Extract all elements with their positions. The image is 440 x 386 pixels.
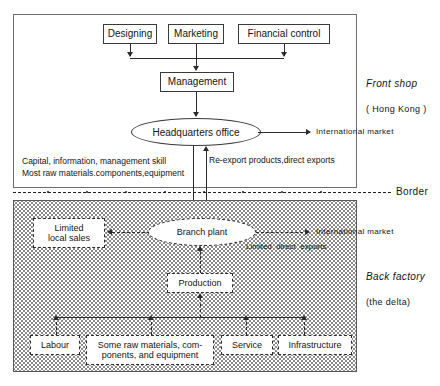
box-management-label: Management: [168, 76, 226, 87]
connector-bottom-bus: [56, 317, 304, 318]
arrowhead-local-sales-in: [107, 229, 112, 235]
arrowhead-management-in: [193, 66, 199, 71]
label-limited-direct-exports: Limited direct exports: [246, 242, 326, 251]
label-border: Border: [396, 186, 428, 197]
border-divider: [13, 192, 391, 193]
arrowhead-hq-in: [193, 112, 199, 117]
arrowhead-raw-materials: [148, 315, 154, 320]
diagram-canvas: Designing Marketing Financial control Ma…: [0, 0, 440, 386]
arrowhead-production-in: [197, 293, 203, 298]
label-capital-flow-line2: Most raw materials.components,equipment: [22, 168, 184, 178]
arrowhead-branch-from-production: [197, 246, 203, 251]
arrowhead-intl-bottom: [305, 229, 310, 235]
connector-bus-production: [200, 298, 201, 318]
box-financial-control[interactable]: Financial control: [238, 24, 330, 44]
arrowhead-hq-reexport: [203, 146, 209, 151]
box-labour[interactable]: Labour: [30, 335, 80, 355]
label-back-factory: Back factory: [366, 271, 425, 282]
box-limited-local-sales-line1: Limited: [48, 223, 90, 233]
ellipse-branch-plant[interactable]: Branch plant: [148, 218, 256, 246]
ellipse-headquarters-label: Headquarters office: [152, 127, 239, 138]
arrowhead-labour: [53, 315, 59, 320]
box-production[interactable]: Production: [167, 273, 233, 293]
connector-hq-intl: [258, 132, 310, 133]
box-marketing-label: Marketing: [174, 28, 218, 39]
box-labour-label: Labour: [41, 340, 69, 350]
label-re-export-flow: Re-export products,direct exports: [209, 155, 335, 165]
box-financial-control-label: Financial control: [248, 28, 321, 39]
label-the-delta: (the delta): [366, 297, 410, 307]
box-production-label: Production: [178, 278, 221, 288]
box-infrastructure[interactable]: Infrastructure: [278, 335, 352, 355]
box-raw-materials-line2: ponents, and equipment: [98, 350, 203, 360]
label-front-shop: Front shop: [366, 78, 417, 89]
box-raw-materials-line1: Some raw materials, com-: [98, 340, 203, 350]
box-management[interactable]: Management: [160, 72, 234, 92]
arrowhead-infrastructure: [301, 315, 307, 320]
box-infrastructure-label: Infrastructure: [288, 340, 341, 350]
box-service-label: Service: [232, 340, 262, 350]
box-service[interactable]: Service: [221, 335, 273, 355]
box-raw-materials[interactable]: Some raw materials, com- ponents, and eq…: [86, 335, 214, 365]
label-international-market-top: International market: [316, 127, 394, 136]
arrowhead-service: [243, 315, 249, 320]
arrowhead-intl-top: [306, 129, 311, 135]
box-limited-local-sales[interactable]: Limited local sales: [33, 218, 105, 248]
label-hong-kong: ( Hong Kong ): [366, 104, 427, 114]
box-marketing[interactable]: Marketing: [168, 24, 224, 44]
box-limited-local-sales-line2: local sales: [48, 233, 90, 243]
ellipse-headquarters-office[interactable]: Headquarters office: [131, 118, 261, 146]
connector-branch-local-sales: [112, 232, 150, 233]
ellipse-branch-plant-label: Branch plant: [177, 227, 228, 237]
arrowhead-financial: [281, 52, 287, 57]
arrowhead-designing: [127, 52, 133, 57]
label-capital-flow-line1: Capital, information, management skill: [22, 156, 166, 166]
label-international-market-bottom: International market: [316, 227, 394, 236]
box-designing[interactable]: Designing: [103, 24, 157, 44]
connector-top-bus: [130, 58, 284, 59]
connector-branch-intl: [256, 232, 308, 233]
box-designing-label: Designing: [108, 28, 152, 39]
